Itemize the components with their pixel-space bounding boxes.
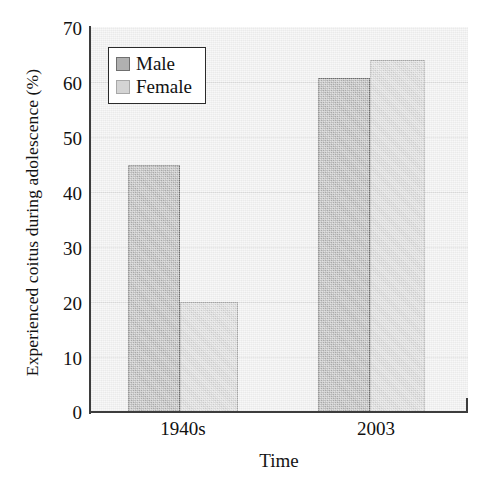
bar-female-1940s[interactable]: [180, 302, 238, 412]
y-tick-label-10: 10: [48, 349, 82, 368]
y-tick-label-50: 50: [48, 129, 82, 148]
legend-label-female: Female: [136, 77, 192, 96]
y-tick-label-30: 30: [48, 239, 82, 258]
y-axis-line: [89, 26, 91, 414]
bar-male-2003[interactable]: [318, 78, 370, 412]
y-tick-label-70: 70: [48, 19, 82, 38]
y-tick-label-0: 0: [48, 403, 82, 422]
bar-male-1940s[interactable]: [128, 165, 180, 413]
y-tick-label-40: 40: [48, 184, 82, 203]
legend-swatch-male-icon: [116, 57, 130, 71]
legend-item-female[interactable]: Female: [116, 75, 198, 98]
legend-label-male: Male: [136, 54, 175, 73]
x-tick-label-2003: 2003: [306, 418, 446, 440]
bar-female-2003[interactable]: [370, 60, 425, 412]
x-tick-label-1940s: 1940s: [113, 418, 253, 440]
y-axis-title: Experienced coitus during adolescence (%…: [22, 23, 43, 423]
x-axis-line: [89, 411, 468, 413]
y-axis-tick-labels: 70 60 50 40 30 20 10 0: [44, 0, 82, 480]
x-axis-right-cap: [466, 398, 468, 412]
legend: Male Female: [108, 47, 206, 104]
legend-item-male[interactable]: Male: [116, 52, 198, 75]
y-tick-label-20: 20: [48, 294, 82, 313]
bar-chart-figure: Experienced coitus during adolescence (%…: [0, 0, 492, 480]
legend-swatch-female-icon: [116, 80, 130, 94]
x-axis-title: Time: [90, 450, 468, 472]
y-tick-label-60: 60: [48, 74, 82, 93]
